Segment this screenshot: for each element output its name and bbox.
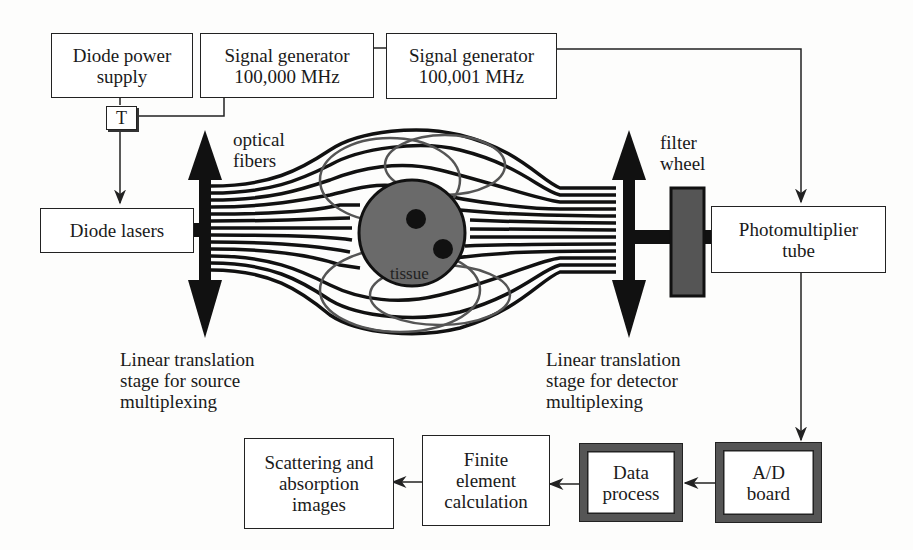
data-process-box: Data process <box>580 444 682 521</box>
finite-element-box: Finite element calculation <box>422 435 550 526</box>
filter-wheel-label: filter wheel <box>660 132 705 174</box>
scattering-images-label: Scattering and absorption images <box>264 452 373 515</box>
tissue-label: tissue <box>390 263 429 284</box>
filter-wheel <box>671 188 704 296</box>
ad-board-label: A/D board <box>747 462 790 504</box>
diode-power-supply-label: Diode power supply <box>73 45 172 87</box>
signal-generator-1-box: Signal generator 100,000 MHz <box>200 33 374 98</box>
signal-generator-2-box: Signal generator 100,001 MHz <box>386 33 557 99</box>
photomultiplier-label: Photomultiplier tube <box>739 219 858 261</box>
diode-power-supply-box: Diode power supply <box>51 33 193 98</box>
detector-stage-label: Linear translation stage for detector mu… <box>546 349 681 412</box>
photomultiplier-tube-box: Photomultiplier tube <box>711 206 886 273</box>
signal-generator-1-label: Signal generator 100,000 MHz <box>224 45 349 87</box>
diode-lasers-label: Diode lasers <box>70 220 164 241</box>
t-label: T <box>116 108 127 129</box>
diode-lasers-box: Diode lasers <box>40 208 194 253</box>
source-stage-label: Linear translation stage for source mult… <box>120 349 255 412</box>
finite-element-label: Finite element calculation <box>444 449 527 512</box>
signal-generator-2-label: Signal generator 100,001 MHz <box>409 45 534 87</box>
ad-board-box: A/D board <box>716 443 821 522</box>
scattering-images-box: Scattering and absorption images <box>244 438 394 529</box>
data-process-label: Data process <box>603 462 660 504</box>
t-box: T <box>106 106 137 130</box>
arrow-to-photomultiplier <box>556 49 801 202</box>
optical-fibers-label: optical fibers <box>233 129 285 171</box>
